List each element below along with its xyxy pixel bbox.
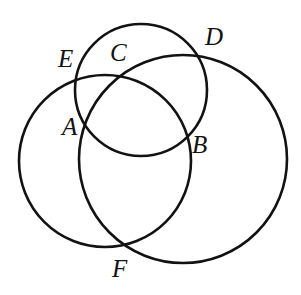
point-label-a: A <box>62 114 77 139</box>
circles-svg <box>0 0 301 295</box>
right-circle <box>79 55 287 263</box>
point-label-e: E <box>58 46 73 71</box>
point-label-d: D <box>205 24 223 49</box>
top-circle <box>75 24 207 156</box>
point-label-f: F <box>112 256 127 281</box>
point-label-c: C <box>110 40 127 65</box>
point-label-b: B <box>192 132 207 157</box>
diagram-canvas: E C D A B F <box>0 0 301 295</box>
left-circle <box>19 75 191 247</box>
